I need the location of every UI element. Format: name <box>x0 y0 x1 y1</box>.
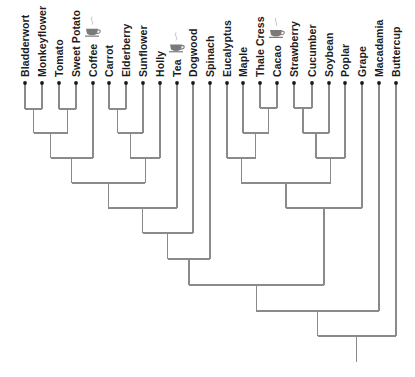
leaf-dot <box>292 81 296 85</box>
leaf-thale-cress: Thale Cress <box>254 16 266 85</box>
leaf-dot <box>377 81 381 85</box>
leaf-dot <box>360 81 364 85</box>
leaf-dot <box>40 81 44 85</box>
leaf-label: Maple <box>237 47 249 77</box>
dendrogram: BladderwortMonkeyflowerTomatoSweet Potat… <box>0 0 415 377</box>
leaf-cucumber: Cucumber <box>306 24 318 85</box>
leaf-dot <box>258 81 262 85</box>
leaf-dot <box>23 81 27 85</box>
leaf-dot <box>74 81 78 85</box>
leaf-label: Dogwood <box>187 28 199 77</box>
leaf-label: Sweet Potato <box>70 10 82 77</box>
leaf-label: Spinach <box>204 35 216 77</box>
leaf-buttercup: Buttercup <box>390 27 402 85</box>
tea-cup-icon <box>169 32 184 52</box>
leaf-dot <box>191 81 195 85</box>
leaf-bladderwort: Bladderwort <box>19 14 31 85</box>
leaf-label: Cucumber <box>306 24 318 77</box>
leaf-label: Thale Cress <box>254 16 266 77</box>
leaf-sunflower: Sunflower <box>137 25 149 85</box>
leaf-dogwood: Dogwood <box>187 28 199 84</box>
leaf-sweet-potato: Sweet Potato <box>70 10 82 85</box>
leaf-label: Elderberry <box>120 23 132 77</box>
leaf-dot <box>141 81 145 85</box>
leaf-spinach: Spinach <box>204 35 216 84</box>
leaf-label: Carrot <box>103 44 115 77</box>
leaf-eucalyptus: Eucalyptus <box>221 20 233 85</box>
leaf-dot <box>225 81 229 85</box>
leaf-dot <box>175 81 179 85</box>
leaf-label: Bladderwort <box>19 14 31 77</box>
leaf-dot <box>124 81 128 85</box>
leaf-label: Monkeyflower <box>36 6 48 77</box>
dendrogram-leaves: BladderwortMonkeyflowerTomatoSweet Potat… <box>19 6 402 85</box>
leaf-cacao: Cacao <box>271 45 283 85</box>
leaf-dot <box>310 81 314 85</box>
leaf-dot <box>394 81 398 85</box>
leaf-label: Eucalyptus <box>221 20 233 77</box>
tea-cup-icon <box>85 17 100 37</box>
leaf-label: Tomato <box>53 39 65 77</box>
leaf-holly: Holly <box>154 51 166 85</box>
leaf-label: Holly <box>154 51 166 77</box>
leaf-dot <box>107 81 111 85</box>
tea-cup-icon <box>269 18 284 38</box>
leaf-dot <box>208 81 212 85</box>
leaf-tea: Tea <box>171 59 183 85</box>
leaf-carrot: Carrot <box>103 44 115 84</box>
leaf-dot <box>275 81 279 85</box>
leaf-coffee: Coffee <box>87 44 99 85</box>
leaf-dot <box>241 81 245 85</box>
leaf-dot <box>91 81 95 85</box>
leaf-label: Macadamia <box>373 19 385 77</box>
leaf-tomato: Tomato <box>53 39 65 85</box>
leaf-label: Strawberry <box>288 21 300 77</box>
leaf-monkeyflower: Monkeyflower <box>36 6 48 85</box>
leaf-dot <box>57 81 61 85</box>
dendrogram-edges <box>25 83 396 362</box>
leaf-label: Grape <box>356 46 368 77</box>
leaf-label: Tea <box>171 59 183 77</box>
leaf-label: Buttercup <box>390 27 402 77</box>
leaf-macadamia: Macadamia <box>373 19 385 84</box>
leaf-soybean: Soybean <box>323 33 335 85</box>
leaf-label: Cacao <box>271 45 283 77</box>
leaf-maple: Maple <box>237 47 249 85</box>
leaf-label: Sunflower <box>137 25 149 77</box>
leaf-elderberry: Elderberry <box>120 23 132 84</box>
leaf-label: Poplar <box>339 44 351 77</box>
leaf-strawberry: Strawberry <box>288 21 300 85</box>
leaf-dot <box>343 81 347 85</box>
leaf-grape: Grape <box>356 46 368 85</box>
leaf-dot <box>158 81 162 85</box>
leaf-poplar: Poplar <box>339 44 351 85</box>
leaf-dot <box>327 81 331 85</box>
leaf-label: Soybean <box>323 33 335 77</box>
leaf-label: Coffee <box>87 44 99 77</box>
